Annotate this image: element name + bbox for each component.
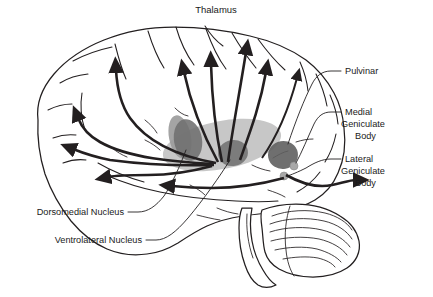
label-lateral-geniculate-line3: Body (355, 178, 376, 188)
label-medial-geniculate-line2: Geniculate (341, 119, 385, 129)
brain-thalamus-diagram: Thalamus (0, 0, 433, 297)
label-medial-geniculate-line3: Body (355, 131, 376, 141)
label-lateral-geniculate-line2: Geniculate (341, 166, 385, 176)
label-group-right: Pulvinar Medial Geniculate Body Lateral … (341, 66, 385, 188)
medial-geniculate-body-shape (290, 162, 298, 170)
cerebellum (261, 204, 360, 277)
label-pulvinar: Pulvinar (345, 66, 378, 76)
figure-canvas: Thalamus (0, 0, 433, 297)
label-ventrolateral-nucleus: Ventrolateral Nucleus (55, 235, 143, 245)
label-dorsomedial-nucleus: Dorsomedial Nucleus (37, 207, 125, 217)
label-medial-geniculate-line1: Medial (345, 107, 372, 117)
figure-title: Thalamus (195, 4, 237, 15)
label-lateral-geniculate-line1: Lateral (345, 154, 373, 164)
